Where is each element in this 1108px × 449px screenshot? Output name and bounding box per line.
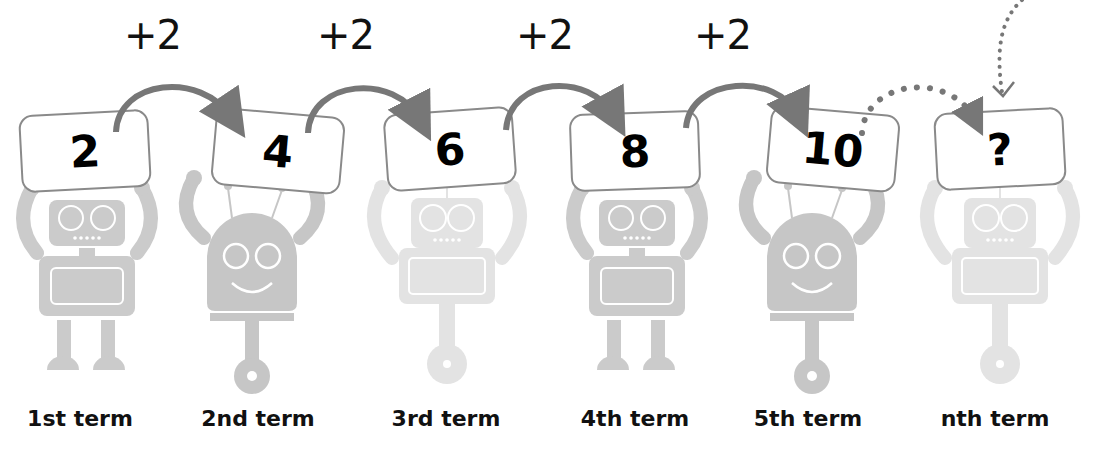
diagram-graphics: [0, 0, 1108, 449]
robot-4: [573, 180, 701, 370]
term-value: 8: [619, 125, 651, 177]
term-card-3: 6: [382, 106, 517, 193]
term-value: ?: [986, 123, 1014, 175]
term-value: 2: [68, 125, 101, 178]
step-label-2: +2: [317, 12, 374, 58]
term-label-2: 2nd term: [178, 406, 338, 431]
robot-2: [186, 170, 318, 394]
term-card-1: 2: [18, 109, 152, 194]
robot-5: [746, 170, 878, 394]
term-label-5: 5th term: [728, 406, 888, 431]
term-value: 6: [433, 122, 467, 175]
step-label-3: +2: [516, 12, 573, 58]
step-label-1: +2: [124, 12, 181, 58]
term-card-5: 10: [765, 104, 901, 193]
term-value: 4: [261, 124, 296, 177]
step-label-4: +2: [694, 12, 751, 58]
term-label-6: nth term: [915, 406, 1075, 431]
sequence-diagram: 2 4 6 8 10 ? +2 +2 +2 +2 1st term 2nd te…: [0, 0, 1108, 449]
term-label-1: 1st term: [0, 406, 160, 431]
term-value: 10: [800, 121, 865, 177]
robot-3: [374, 174, 520, 384]
term-label-4: 4th term: [555, 406, 715, 431]
term-card-6: ?: [933, 107, 1067, 192]
term-card-4: 8: [569, 110, 702, 192]
robot-6: [927, 174, 1073, 384]
term-card-2: 4: [210, 106, 346, 195]
term-label-3: 3rd term: [366, 406, 526, 431]
robot-1: [23, 180, 151, 370]
